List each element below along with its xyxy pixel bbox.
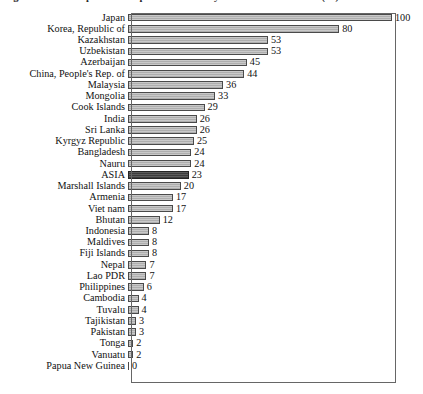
value-label: 45 [247, 57, 260, 67]
bar [128, 227, 149, 235]
bar [128, 137, 194, 145]
bar-zone: 24 [128, 158, 423, 169]
category-label: Kazakhstan [0, 35, 128, 45]
category-label: Cambodia [0, 293, 128, 303]
category-label: Pakistan [0, 327, 128, 337]
bar-row: Sri Lanka26 [0, 124, 423, 135]
category-label: Sri Lanka [0, 125, 128, 135]
value-label: 12 [160, 215, 173, 225]
category-label: Mongolia [0, 91, 128, 101]
category-label: Tonga [0, 338, 128, 348]
bar-row: Lao PDR7 [0, 270, 423, 281]
bar-zone: 8 [128, 248, 423, 259]
bar-zone: 53 [128, 46, 423, 57]
value-label: 2 [133, 338, 141, 348]
value-label: 8 [149, 237, 157, 247]
category-label: Fiji Islands [0, 248, 128, 258]
category-label: China, People's Rep. of [0, 69, 128, 79]
bar-row: Kazakhstan53 [0, 34, 423, 45]
bar [128, 272, 146, 280]
bar-zone: 12 [128, 214, 423, 225]
bar-zone: 7 [128, 270, 423, 281]
category-label: Armenia [0, 192, 128, 202]
bar-row: Viet nam17 [0, 203, 423, 214]
bar-zone: 23 [128, 169, 423, 180]
bar [128, 126, 197, 134]
category-label: Tajikistan [0, 316, 128, 326]
bar-row: Tonga2 [0, 338, 423, 349]
bar-row: Maldives8 [0, 237, 423, 248]
value-label: 8 [149, 248, 157, 258]
bar-row: India26 [0, 113, 423, 124]
value-label: 44 [244, 69, 257, 79]
value-label: 4 [139, 305, 147, 315]
value-label: 80 [339, 24, 352, 34]
bar [128, 205, 173, 213]
bar-zone: 2 [128, 349, 423, 360]
bar-zone: 17 [128, 203, 423, 214]
category-label: Philippines [0, 282, 128, 292]
bar-zone: 29 [128, 102, 423, 113]
bar [128, 25, 339, 33]
bar-zone: 100 [128, 12, 423, 23]
bar-row: Tajikistan3 [0, 315, 423, 326]
bar-row: Bhutan12 [0, 214, 423, 225]
bar-zone: 7 [128, 259, 423, 270]
value-label: 24 [191, 147, 204, 157]
category-label: Malaysia [0, 80, 128, 90]
bar [128, 194, 173, 202]
bar-zone: 4 [128, 293, 423, 304]
bar-row: Azerbaijan45 [0, 57, 423, 68]
value-label: 4 [139, 293, 147, 303]
bar [128, 81, 223, 89]
bar-zone: 8 [128, 225, 423, 236]
bar-row: Papua New Guinea0 [0, 360, 423, 371]
bar-chart: Japan100Korea, Republic of80Kazakhstan53… [0, 12, 423, 390]
category-label: Japan [0, 13, 128, 23]
value-label: 33 [215, 91, 228, 101]
bar-row: Korea, Republic of80 [0, 23, 423, 34]
bar [128, 239, 149, 247]
category-label: ASIA [0, 170, 128, 180]
bar-zone: 24 [128, 147, 423, 158]
bar [128, 283, 144, 291]
category-label: Marshall Islands [0, 181, 128, 191]
value-label: 26 [197, 125, 210, 135]
value-label: 20 [181, 181, 194, 191]
value-label: 3 [136, 316, 144, 326]
bar-zone: 17 [128, 192, 423, 203]
bar-row: Cambodia4 [0, 293, 423, 304]
category-label: Cook Islands [0, 102, 128, 112]
category-label: India [0, 114, 128, 124]
category-label: Viet nam [0, 204, 128, 214]
bar [128, 160, 191, 168]
bar-row: Mongolia33 [0, 91, 423, 102]
bar [128, 328, 136, 336]
bar-zone: 80 [128, 23, 423, 34]
bar-row: Cook Islands29 [0, 102, 423, 113]
value-label: 25 [194, 136, 207, 146]
value-label: 29 [205, 102, 218, 112]
category-label: Nauru [0, 159, 128, 169]
category-label: Korea, Republic of [0, 24, 128, 34]
bar-zone: 20 [128, 181, 423, 192]
category-label: Uzbekistan [0, 46, 128, 56]
category-label: Maldives [0, 237, 128, 247]
bar [128, 182, 181, 190]
bar-zone: 33 [128, 91, 423, 102]
bar-zone: 8 [128, 237, 423, 248]
value-label: 53 [268, 46, 281, 56]
value-label: 17 [173, 192, 186, 202]
bar [128, 306, 139, 314]
bar-row: Uzbekistan53 [0, 46, 423, 57]
bar [128, 70, 244, 78]
category-label: Azerbaijan [0, 57, 128, 67]
bar-row: Nauru24 [0, 158, 423, 169]
bar-row: Indonesia8 [0, 225, 423, 236]
bar [128, 250, 149, 258]
bar-zone: 26 [128, 124, 423, 135]
bar [128, 216, 160, 224]
bar-zone: 36 [128, 79, 423, 90]
figure-title: Figure 1.1.1 Per capita consumption of e… [4, 0, 419, 2]
bar-zone: 3 [128, 315, 423, 326]
